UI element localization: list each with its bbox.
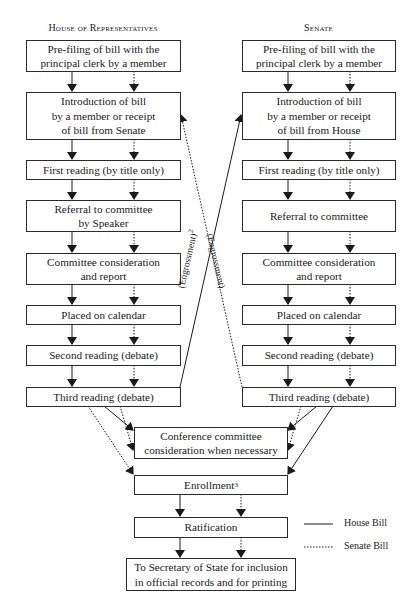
senate-step-first-reading: First reading (by title only) — [242, 160, 396, 180]
enrollment-box: Enrollment3 — [134, 475, 288, 495]
house-step-calendar: Placed on calendar — [26, 305, 181, 325]
house-step-third-reading: Third reading (debate) — [26, 387, 181, 407]
conference-committee-box: Conference committee consideration when … — [134, 427, 288, 459]
house-column-header: House of Representatives — [26, 22, 180, 33]
house-step-referral: Referral to committee by Speaker — [26, 200, 181, 232]
senate-step-second-reading: Second reading (debate) — [242, 345, 396, 366]
house-step-introduction: Introduction of bill by a member or rece… — [26, 92, 181, 140]
house-step-prefiling: Pre-filing of bill with the principal cl… — [26, 40, 181, 72]
senate-step-third-reading: Third reading (debate) — [242, 387, 396, 407]
legend-senate-bill: Senate Bill — [344, 540, 388, 551]
house-step-second-reading: Second reading (debate) — [26, 345, 181, 366]
senate-step-referral: Referral to committee — [242, 200, 396, 232]
ratification-box: Ratification — [134, 517, 288, 538]
senate-column-header: Senate — [242, 22, 395, 33]
enrollment-label: Enrollment — [184, 478, 234, 493]
secretary-of-state-box: To Secretary of State for inclusion in o… — [126, 558, 296, 591]
senate-step-calendar: Placed on calendar — [242, 305, 396, 325]
house-step-committee: Committee consideration and report — [26, 253, 181, 285]
senate-step-prefiling: Pre-filing of bill with the principal cl… — [242, 40, 396, 72]
senate-step-introduction: Introduction of bill by a member or rece… — [242, 92, 396, 140]
legend-house-bill: House Bill — [344, 517, 387, 528]
house-step-first-reading: First reading (by title only) — [26, 160, 181, 180]
senate-step-committee: Committee consideration and report — [242, 253, 396, 285]
